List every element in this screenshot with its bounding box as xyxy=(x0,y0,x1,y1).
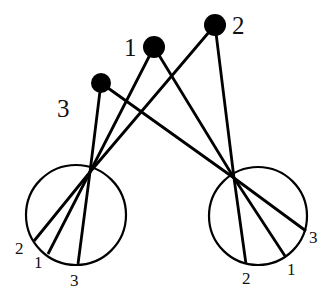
left-screen-circle xyxy=(26,165,126,265)
source-3-dot xyxy=(91,73,111,93)
rays-group xyxy=(34,25,306,264)
left-screen-label-3: 3 xyxy=(70,271,79,290)
source-1-dot xyxy=(143,36,165,58)
left-screen-label-2: 2 xyxy=(15,239,24,258)
left-screen-label-1: 1 xyxy=(34,253,43,272)
pinhole-projection-diagram: 213213123 xyxy=(0,0,336,304)
right-screen-label-3: 3 xyxy=(309,228,318,247)
source-2-label: 2 xyxy=(232,12,245,39)
ray-source-2-right xyxy=(215,25,246,264)
labels-group: 213213123 xyxy=(15,12,318,290)
source-2-dot xyxy=(204,14,226,36)
ray-source-3-right xyxy=(101,83,306,231)
ray-source-3-left xyxy=(78,83,101,264)
sources-group xyxy=(91,14,226,93)
source-1-label: 1 xyxy=(124,34,137,61)
right-screen-label-1: 1 xyxy=(287,260,296,279)
right-screen-label-2: 2 xyxy=(242,269,251,288)
source-3-label: 3 xyxy=(57,95,70,122)
ray-source-1-right xyxy=(154,47,285,256)
